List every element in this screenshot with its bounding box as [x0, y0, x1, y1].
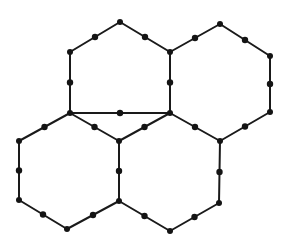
hexagon-lattice-diagram: [0, 0, 291, 245]
vertex-node-v6: [67, 110, 73, 116]
edge-midpoint-node: [40, 211, 46, 217]
vertex-node-v8: [267, 109, 273, 115]
edge-midpoint-node: [242, 123, 248, 129]
vertex-node-v4: [217, 21, 223, 27]
edge-midpoint-node: [167, 79, 173, 85]
edge-midpoint-node: [141, 213, 147, 219]
edge-midpoint-node: [192, 124, 198, 130]
vertex-node-v9: [16, 138, 22, 144]
edge-midpoint-node: [16, 167, 22, 173]
vertex-node-v1: [117, 19, 123, 25]
vertex-node-v10: [116, 138, 122, 144]
edge-midpoint-node: [192, 35, 198, 41]
vertex-node-v12: [16, 197, 22, 203]
edge-midpoint-node: [216, 169, 222, 175]
edge-midpoint-node: [242, 37, 248, 43]
edge-midpoint-node: [90, 212, 96, 218]
vertex-node-v5: [267, 53, 273, 59]
edge-midpoint-node: [117, 110, 123, 116]
vertex-node-v2: [67, 49, 73, 55]
edge-midpoint-node: [116, 168, 122, 174]
vertex-node-v14: [216, 200, 222, 206]
vertex-node-v15: [64, 226, 70, 232]
vertex-node-v13: [116, 198, 122, 204]
edge-midpoint-node: [141, 124, 147, 130]
edge-midpoint-node: [92, 34, 98, 40]
edge-midpoint-node: [142, 34, 148, 40]
edge-midpoint-node: [67, 79, 73, 85]
vertex-node-v7: [167, 110, 173, 116]
vertex-node-v16: [167, 228, 173, 234]
vertex-node-v11: [217, 138, 223, 144]
edge-midpoint-node: [41, 124, 47, 130]
edge-midpoint-node: [191, 214, 197, 220]
vertex-node-v3: [167, 49, 173, 55]
edge-midpoint-node: [267, 81, 273, 87]
edge-midpoint-node: [91, 124, 97, 130]
